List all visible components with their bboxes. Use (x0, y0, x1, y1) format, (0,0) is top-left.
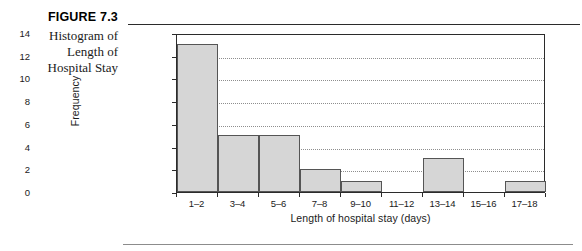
y-axis-tick-label: 14 (0, 28, 30, 39)
x-axis-tick-mark (545, 193, 546, 197)
histogram-chart: Frequency 02468101214 1–23–45–67–89–1011… (0, 0, 582, 251)
y-axis-tick-label: 0 (0, 187, 30, 198)
gridline (177, 126, 544, 127)
x-axis-tick-label: 9–10 (340, 198, 381, 209)
x-axis-tick-mark (217, 193, 218, 197)
x-axis-tick-label: 15–16 (463, 198, 504, 209)
x-axis-tick-mark (176, 193, 177, 197)
y-axis-title: Frequency (69, 21, 81, 181)
x-axis-tick-mark (381, 193, 382, 197)
y-axis-tick-label: 10 (0, 73, 30, 84)
histogram-bar (177, 44, 218, 192)
x-axis-tick-mark (340, 193, 341, 197)
y-axis-tick-label: 2 (0, 164, 30, 175)
y-axis-tick-label: 12 (0, 51, 30, 62)
x-axis-title: Length of hospital stay (days) (176, 212, 545, 224)
histogram-bar (259, 135, 300, 192)
x-axis-tick-mark (463, 193, 464, 197)
x-axis-tick-label: 1–2 (176, 198, 217, 209)
histogram-bar (300, 169, 341, 192)
x-axis-tick-label: 17–18 (504, 198, 545, 209)
gridline (177, 103, 544, 104)
gridline (177, 58, 544, 59)
x-axis-tick-label: 11–12 (381, 198, 422, 209)
histogram-bar (218, 135, 259, 192)
y-axis-tick-label: 8 (0, 96, 30, 107)
x-axis-tick-label: 3–4 (217, 198, 258, 209)
gridline (177, 80, 544, 81)
histogram-bar (341, 181, 382, 192)
y-axis-tick-label: 6 (0, 119, 30, 130)
x-axis-tick-mark (299, 193, 300, 197)
x-axis-tick-label: 5–6 (258, 198, 299, 209)
x-axis-tick-mark (422, 193, 423, 197)
x-axis-tick-mark (258, 193, 259, 197)
x-axis-tick-mark (504, 193, 505, 197)
x-axis-tick-label: 7–8 (299, 198, 340, 209)
y-axis-tick-label: 4 (0, 142, 30, 153)
histogram-bar (423, 158, 464, 192)
x-axis-tick-label: 13–14 (422, 198, 463, 209)
plot-area (176, 34, 545, 193)
histogram-bar (505, 181, 546, 192)
